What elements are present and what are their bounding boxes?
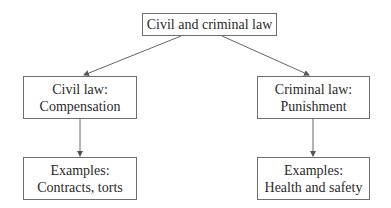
civil-law-title: Civil law: xyxy=(52,81,108,98)
civil-examples-list: Contracts, torts xyxy=(37,179,123,196)
criminal-law-purpose: Punishment xyxy=(280,98,346,115)
criminal-law-title: Criminal law: xyxy=(275,81,352,98)
arrow-root-to-criminal xyxy=(222,36,309,75)
criminal-law-node: Criminal law: Punishment xyxy=(257,76,370,119)
root-node-civil-and-criminal-law: Civil and criminal law xyxy=(142,13,277,36)
civil-examples-node: Examples: Contracts, torts xyxy=(23,157,137,200)
civil-law-purpose: Compensation xyxy=(40,98,121,115)
civil-examples-heading: Examples: xyxy=(50,162,109,179)
criminal-examples-node: Examples: Health and safety xyxy=(257,157,370,200)
arrow-root-to-civil xyxy=(84,36,181,75)
criminal-examples-heading: Examples: xyxy=(284,162,343,179)
civil-law-node: Civil law: Compensation xyxy=(23,76,137,119)
root-node-label: Civil and criminal law xyxy=(147,16,273,33)
criminal-examples-list: Health and safety xyxy=(265,179,363,196)
